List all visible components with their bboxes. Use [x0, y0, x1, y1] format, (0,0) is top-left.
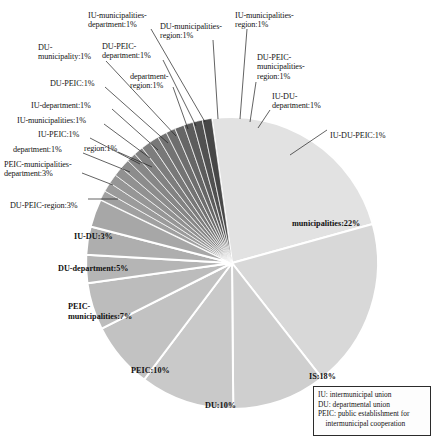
slice-label-is: IS:18% — [309, 372, 336, 382]
slice-label-municipalities: municipalities:22% — [292, 219, 360, 229]
callout-label-iu-municipalities-region: IU-municipalities- region:1% — [235, 11, 294, 30]
callout-label-iu-du-peic: IU-DU-PEIC:1% — [330, 131, 386, 140]
slice-label-du: DU:10% — [205, 401, 236, 411]
callout-label-iu-peic: IU-PEIC:1% — [38, 130, 79, 139]
callout-label-du-peic: DU-PEIC:1% — [50, 79, 94, 88]
leader-line — [82, 173, 113, 185]
pie-chart-canvas — [0, 0, 440, 442]
leader-line — [105, 87, 168, 143]
callout-label-du-municipality: DU- municipality:1% — [38, 43, 91, 62]
callout-label-du-peic-department: DU-PEIC- department:1% — [102, 42, 151, 61]
leader-line — [240, 29, 247, 119]
callout-label-du-peic-region: DU-PEIC-region:3% — [10, 201, 77, 210]
callout-label-iu-department: IU-department:1% — [31, 101, 91, 110]
callout-label-iu-du-department: IU-DU- department:1% — [272, 92, 321, 111]
leader-line — [163, 60, 196, 126]
callout-label-du-peic-municipalities-region: DU-PEIC- municipalities- region:1% — [257, 53, 305, 81]
slice-label-peic-municipalities: PEIC- municipalities:7% — [68, 302, 132, 321]
callout-label-department-region: department- region:1% — [130, 72, 168, 91]
legend-box: IU: intermunicipal unionDU: departmental… — [313, 386, 431, 436]
leader-line — [250, 82, 256, 122]
callout-label-region: region:1% — [84, 144, 117, 153]
callout-label-du-municipalities-region: DU-municipalities- region:1% — [160, 22, 222, 41]
leader-line — [83, 153, 130, 172]
slice-label-du-department: DU-department:5% — [58, 264, 129, 274]
leader-line — [112, 109, 158, 150]
pie-chart-figure: municipalities:22%IS:18%DU:10%PEIC:10%PE… — [0, 0, 440, 442]
callout-label-department: department:1% — [13, 145, 62, 154]
slice-label-peic: PEIC:10% — [131, 366, 170, 376]
callout-label-iu-municipalities-department: IU-municipalities- department:1% — [88, 11, 147, 30]
leader-line — [173, 87, 188, 129]
legend-line-3: intermunicipal cooperation — [318, 419, 426, 429]
callout-label-iu-municipalities: IU-municipalities:1% — [17, 116, 86, 125]
slice-label-iu-du: IU-DU:3% — [74, 232, 113, 242]
leader-line — [213, 40, 218, 119]
callout-label-peic-municipalities-department: PEIC-municipalities- department:3% — [4, 160, 72, 179]
legend-line-2: PEIC: public establishment for — [318, 409, 426, 419]
legend-line-0: IU: intermunicipal union — [318, 390, 426, 400]
legend-line-1: DU: departmental union — [318, 400, 426, 410]
